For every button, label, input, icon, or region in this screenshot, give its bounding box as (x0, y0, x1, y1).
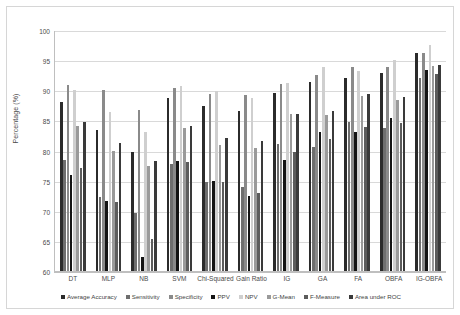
bar (96, 130, 99, 271)
bar (131, 152, 134, 271)
bar (115, 202, 118, 271)
bar (202, 106, 205, 271)
legend-item[interactable]: Area under ROC (349, 293, 401, 300)
bar (361, 96, 364, 271)
bar (419, 78, 422, 271)
bar (351, 67, 354, 271)
bar (325, 115, 328, 271)
legend-label: PPV (217, 293, 229, 300)
legend-item[interactable]: PPV (211, 293, 229, 300)
bar (315, 75, 318, 271)
x-axis-line (54, 271, 446, 272)
bar (319, 132, 322, 271)
x-axis-tick-label: GA (305, 274, 341, 283)
x-axis-tick-label: MLP (91, 274, 127, 283)
bar (257, 193, 260, 271)
y-axis-tick-labels: 1009590858075706560 (19, 31, 50, 272)
bar-group (268, 31, 304, 271)
chart-plot-frame: Percentage (%) 1009590858075706560 DTMLP… (6, 6, 454, 309)
bar (400, 123, 403, 271)
legend-label: F-Measure (310, 293, 340, 300)
bar (380, 73, 383, 271)
y-axis-tick-label: 65 (24, 238, 50, 245)
bar (170, 164, 173, 271)
bar (393, 60, 396, 271)
bar (348, 122, 351, 271)
bar (396, 100, 399, 271)
bar-group (410, 31, 446, 271)
bar (422, 53, 425, 271)
bar (80, 168, 83, 271)
bar (76, 126, 79, 271)
bar (119, 143, 122, 271)
bar (280, 84, 283, 271)
bar (141, 257, 144, 271)
bar (248, 196, 251, 271)
legend-item[interactable]: NPV (239, 293, 258, 300)
legend-swatch-icon (61, 295, 65, 299)
legend-item[interactable]: Average Accuracy (61, 293, 117, 300)
bar (354, 132, 357, 271)
y-axis-title: Percentage (%) (12, 59, 19, 179)
y-axis-tick-label: 100 (24, 28, 50, 35)
bar-group (197, 31, 233, 271)
bar (138, 110, 141, 271)
legend-label: Specificity (175, 293, 203, 300)
legend-label: Sensitivity (132, 293, 160, 300)
bar (296, 114, 299, 271)
bar (357, 71, 360, 271)
legend-swatch-icon (239, 295, 243, 299)
x-axis-tick-label: DT (55, 274, 91, 283)
bar (205, 182, 208, 271)
legend-swatch-icon (169, 295, 173, 299)
bar (329, 139, 332, 271)
legend-swatch-icon (304, 295, 308, 299)
legend-item[interactable]: G-Mean (267, 293, 295, 300)
bar (429, 45, 432, 271)
bar (403, 97, 406, 271)
bar (215, 91, 218, 271)
bar (63, 160, 66, 271)
bar-group (126, 31, 162, 271)
chart-legend: Average AccuracySensitivitySpecificityPP… (15, 293, 447, 300)
x-axis-tick-labels: DTMLPNBSVMChi-SquaredGain RatioIGGAFAOBF… (55, 274, 447, 283)
bar-group (233, 31, 269, 271)
bar (147, 166, 150, 271)
bar (309, 82, 312, 271)
x-axis-tick-label: SVM (162, 274, 198, 283)
y-axis-tick-label: 80 (24, 148, 50, 155)
legend-item[interactable]: Sensitivity (126, 293, 160, 300)
bar (344, 78, 347, 271)
bar (432, 66, 435, 271)
legend-item[interactable]: F-Measure (304, 293, 340, 300)
bar (251, 98, 254, 271)
bar (67, 85, 70, 271)
bar (438, 65, 441, 271)
bar (261, 141, 264, 271)
bar (144, 132, 147, 271)
bar (322, 67, 325, 271)
legend-label: G-Mean (273, 293, 295, 300)
bar (154, 161, 157, 271)
y-axis-tick-label: 85 (24, 118, 50, 125)
y-axis-tick-label: 95 (24, 58, 50, 65)
bar (283, 160, 286, 271)
bar (102, 90, 105, 271)
gridline (54, 272, 446, 273)
bar (134, 213, 137, 271)
bar (73, 90, 76, 271)
bar (190, 126, 193, 271)
x-axis-tick-label: IG-OBFA (411, 274, 447, 283)
bar (290, 114, 293, 271)
bar (435, 74, 438, 271)
bar (383, 128, 386, 271)
bar (222, 182, 225, 271)
bar (186, 162, 189, 271)
legend-item[interactable]: Specificity (169, 293, 203, 300)
bar-group (304, 31, 340, 271)
legend-label: Area under ROC (355, 293, 401, 300)
y-axis-tick-label: 75 (24, 178, 50, 185)
plot-area (54, 31, 446, 272)
x-axis-tick-label: IG (269, 274, 305, 283)
bar (151, 239, 154, 271)
